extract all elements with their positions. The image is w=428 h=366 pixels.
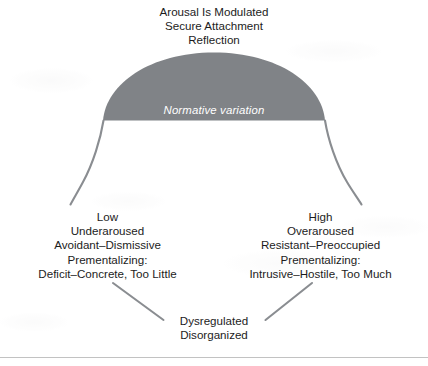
right-label-block: High Overaroused Resistant–Preoccupied P… [213,210,428,281]
left-label-line-1: Low [0,210,215,224]
left-label-line-5: Deficit–Concrete, Too Little [0,267,215,281]
right-label-line-5: Intrusive–Hostile, Too Much [213,267,428,281]
normative-variation-caption: Normative variation [0,104,428,116]
left-label-line-3: Avoidant–Dismissive [0,238,215,252]
diagram-figure: Arousal Is Modulated Secure Attachment R… [0,0,428,366]
left-label-line-4: Prementalizing: [0,253,215,267]
left-label-line-2: Underaroused [0,224,215,238]
top-label-line-3: Reflection [0,33,428,47]
arch-diagram-graphic [0,0,428,366]
bottom-label-line-1: Dysregulated [134,314,294,328]
top-label-line-2: Secure Attachment [0,19,428,33]
arch-right-leg-stroke [325,121,362,205]
arch-left-leg-stroke [71,121,104,205]
right-label-line-2: Overaroused [213,224,428,238]
left-label-block: Low Underaroused Avoidant–Dismissive Pre… [0,210,215,281]
page-rule-divider [0,357,428,358]
top-label-block: Arousal Is Modulated Secure Attachment R… [0,5,428,48]
bottom-label-line-2: Disorganized [134,328,294,342]
right-label-line-3: Resistant–Preoccupied [213,238,428,252]
bottom-label-block: Dysregulated Disorganized [134,314,294,342]
top-label-line-1: Arousal Is Modulated [0,5,428,19]
right-label-line-4: Prementalizing: [213,253,428,267]
right-label-line-1: High [213,210,428,224]
